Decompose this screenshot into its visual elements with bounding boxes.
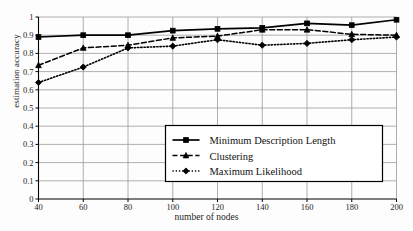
y-tick-label: 0.8 [23,48,34,58]
data-point-marker [305,21,310,26]
y-tick-label: 1 [29,12,33,22]
x-tick-label: 200 [390,202,403,212]
y-tick-label: 0.7 [23,67,34,77]
legend-item-label[interactable]: Minimum Description Length [210,135,337,146]
data-point-marker [170,28,175,33]
y-tick-label: 0.1 [23,176,34,186]
legend-sample-marker [184,138,189,143]
x-tick-label: 60 [79,202,88,212]
legend-item-label[interactable]: Clustering [210,151,254,162]
data-point-marker [35,79,41,85]
x-tick-label: 100 [166,202,179,212]
data-point-marker [81,33,86,38]
x-tick-label: 160 [301,202,314,212]
x-tick-label: 40 [34,202,43,212]
y-tick-label: 0.9 [23,30,34,40]
chart-legend[interactable]: Minimum Description LengthClusteringMaxi… [166,126,383,182]
data-point-marker [80,64,86,70]
data-point-marker [304,40,310,46]
data-point-marker [259,42,265,48]
data-point-marker [215,26,220,31]
y-tick-label: 0.4 [23,121,34,131]
y-tick-label: 0.5 [23,103,34,113]
x-tick-label: 80 [124,202,133,212]
y-tick-label: 0.6 [23,85,34,95]
data-point-marker [170,43,176,49]
data-point-marker [349,37,355,43]
x-tick-label: 120 [211,202,224,212]
chart-figure: 00.10.20.30.40.50.60.70.80.91 4060801001… [0,0,413,231]
x-tick-label: 180 [345,202,358,212]
legend-item-label[interactable]: Maximum Likelihood [210,166,303,177]
y-axis-label: estimation accuracy [11,11,21,131]
x-tick-label: 140 [256,202,269,212]
y-tick-label: 0 [29,194,33,204]
x-axis-tick-labels: 406080100120140160180200 [34,202,403,212]
data-point-marker [126,33,131,38]
x-axis-label: number of nodes [0,212,413,222]
line-chart: 00.10.20.30.40.50.60.70.80.91 4060801001… [0,0,413,231]
y-axis-tick-labels: 00.10.20.30.40.50.60.70.80.91 [23,12,34,204]
y-tick-label: 0.2 [23,158,34,168]
data-point-marker [394,17,399,22]
data-point-marker [349,23,354,28]
data-point-marker [36,35,41,40]
y-tick-label: 0.3 [23,139,34,149]
